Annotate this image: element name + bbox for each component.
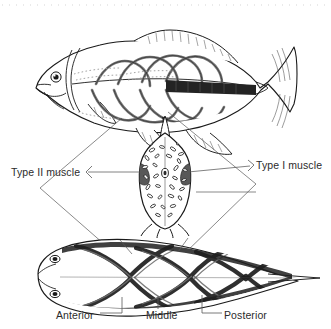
label-middle: Middle (146, 310, 178, 321)
label-posterior: Posterior (224, 310, 267, 321)
vertebral-centrum (162, 168, 169, 177)
label-type-ii-muscle: Type II muscle (11, 167, 80, 178)
dorsal-eye-right (50, 290, 60, 297)
dorsal-eye-left (50, 255, 60, 262)
anal-fin (186, 130, 232, 154)
label-type-i-muscle: Type I muscle (256, 160, 322, 171)
dorsal-fish-view (38, 238, 320, 316)
label-anterior: Anterior (56, 310, 94, 321)
fish-eye (51, 72, 61, 82)
fish-muscle-figure: Type II muscle Type I muscle Anterior Mi… (0, 0, 331, 329)
type-i-arrow (248, 160, 254, 171)
